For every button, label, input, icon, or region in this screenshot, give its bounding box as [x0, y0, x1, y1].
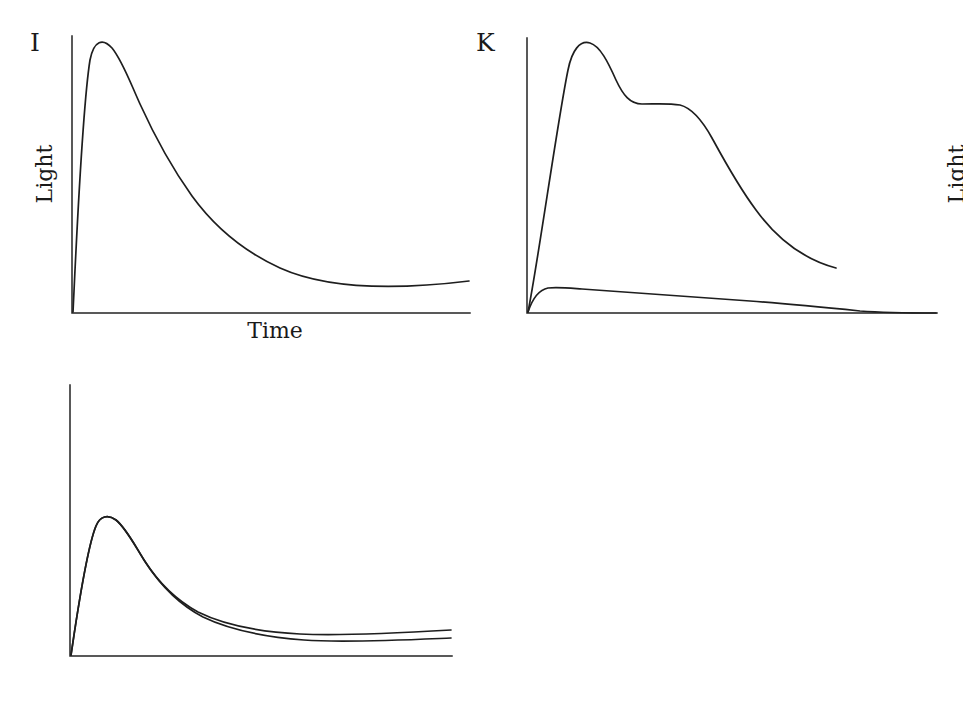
chart-panel-j: J Time Light [0, 360, 480, 720]
figure-root: I Time Light K Time Light J Time Light [0, 0, 963, 720]
axis-lines-k [527, 38, 937, 313]
chart-panel-i: I Time Light [0, 0, 480, 360]
data-curve-j-lower [71, 517, 451, 655]
empty-quadrant [480, 360, 963, 720]
chart-panel-k: K Time Light [460, 0, 963, 360]
chart-plot-i [0, 0, 480, 360]
data-curve-i-primary [73, 42, 469, 312]
chart-plot-j [0, 360, 480, 720]
y-axis-label-k: Light [946, 139, 963, 209]
x-axis-label-i: Time [195, 320, 355, 342]
axis-lines-j [70, 385, 452, 656]
panel-label-i: I [30, 30, 40, 55]
chart-plot-k [460, 0, 963, 360]
data-curve-k-upper [528, 42, 836, 312]
y-axis-label-i: Light [34, 139, 56, 209]
panel-label-k: K [476, 30, 495, 55]
data-curve-k-lower [528, 288, 936, 313]
axis-lines-i [72, 36, 470, 313]
